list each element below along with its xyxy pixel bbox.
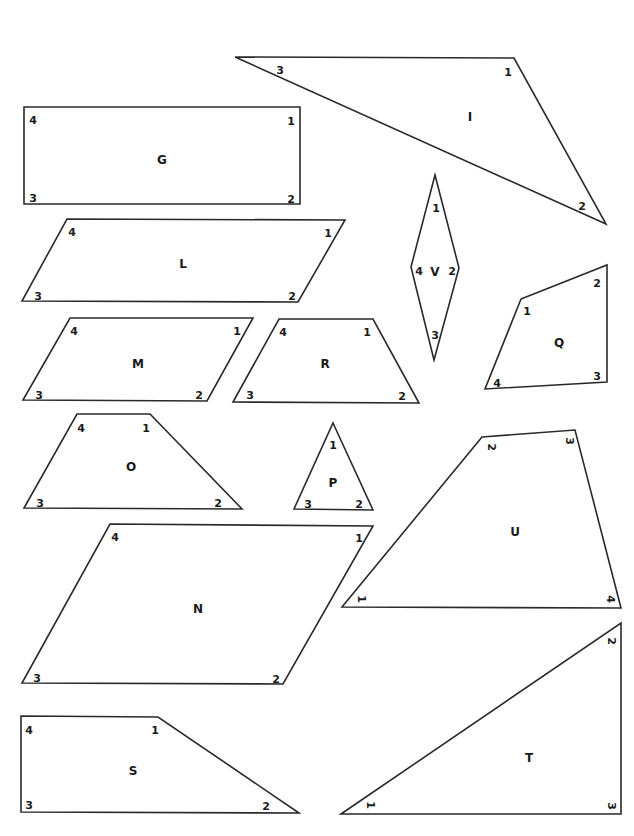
shapes-worksheet: I312G4132L4132V1234M4132R4132Q1234O4132P… [0,0,634,836]
vertex-label: 2 [262,800,270,813]
vertex-label: 4 [70,325,78,338]
shape-v: V1234 [411,175,459,360]
shape-name-label: R [320,357,329,371]
shape-name-label: Q [554,336,564,350]
vertex-label: 3 [593,370,601,383]
vertex-label: 4 [29,114,37,127]
vertex-label: 1 [504,66,512,79]
vertex-label: 1 [329,439,337,452]
vertex-label: 1 [363,326,371,339]
shape-s: S4132 [21,716,299,813]
vertex-label: 2 [593,277,601,290]
shape-g: G4132 [24,107,300,206]
triangle-outline [294,423,373,510]
vertex-label: 2 [398,390,406,403]
shape-p: P132 [294,423,373,511]
shape-name-label: N [193,602,203,616]
shape-name-label: O [126,460,136,474]
vertex-label: 2 [195,389,203,402]
shape-u: U2341 [342,430,621,608]
shape-name-label: L [179,257,187,271]
vertex-label: 3 [29,192,37,205]
shape-name-label: T [525,751,534,765]
shape-m: M4132 [23,318,253,402]
vertex-label: 2 [288,290,296,303]
vertex-label: 4 [493,377,501,390]
vertex-label: 4 [604,595,617,603]
vertex-label: 1 [151,724,159,737]
vertex-label: 3 [35,389,43,402]
vertex-label: 3 [304,498,312,511]
vertex-label: 2 [578,200,586,213]
shape-name-label: G [157,153,167,167]
shape-name-label: P [329,476,338,490]
vertex-label: 2 [272,673,280,686]
vertex-label: 3 [33,672,41,685]
vertex-label: 2 [605,637,618,645]
shape-name-label: I [468,110,472,124]
vertex-label: 2 [485,443,498,451]
vertex-label: 4 [279,326,287,339]
vertex-label: 3 [563,437,576,445]
shape-r: R4132 [233,319,419,403]
shape-q: Q1234 [485,265,607,390]
shape-l: L4132 [22,219,345,303]
vertex-label: 2 [448,265,456,278]
vertex-label: 3 [34,290,42,303]
shape-name-label: M [132,357,144,371]
vertex-label: 1 [287,115,295,128]
shape-o: O4132 [24,414,242,510]
vertex-label: 2 [355,498,363,511]
shape-name-label: S [129,764,138,778]
trapezoid-outline [21,716,299,813]
vertex-label: 4 [68,226,76,239]
vertex-label: 2 [214,497,222,510]
vertex-label: 1 [523,305,531,318]
vertex-label: 1 [233,325,241,338]
vertex-label: 1 [355,532,363,545]
vertex-label: 4 [25,724,33,737]
shape-name-label: U [510,525,520,539]
vertex-label: 1 [432,202,440,215]
vertex-label: 3 [276,64,284,77]
vertex-label: 3 [605,802,618,810]
quadrilateral-outline [485,265,607,389]
triangle-outline [341,623,621,814]
vertex-label: 4 [415,265,423,278]
vertex-label: 3 [246,389,254,402]
vertex-label: 3 [431,329,439,342]
vertex-label: 2 [287,193,295,206]
vertex-label: 1 [364,801,377,809]
shape-t: T123 [341,623,621,814]
vertex-label: 1 [142,422,150,435]
vertex-label: 1 [324,227,332,240]
vertex-label: 1 [355,595,368,603]
shapes-layer: I312G4132L4132V1234M4132R4132Q1234O4132P… [21,57,621,814]
shape-n: N4132 [22,524,373,686]
vertex-label: 4 [77,422,85,435]
shape-name-label: V [430,265,440,279]
quadrilateral-outline [342,430,621,608]
vertex-label: 3 [25,799,33,812]
vertex-label: 3 [36,497,44,510]
vertex-label: 4 [111,531,119,544]
